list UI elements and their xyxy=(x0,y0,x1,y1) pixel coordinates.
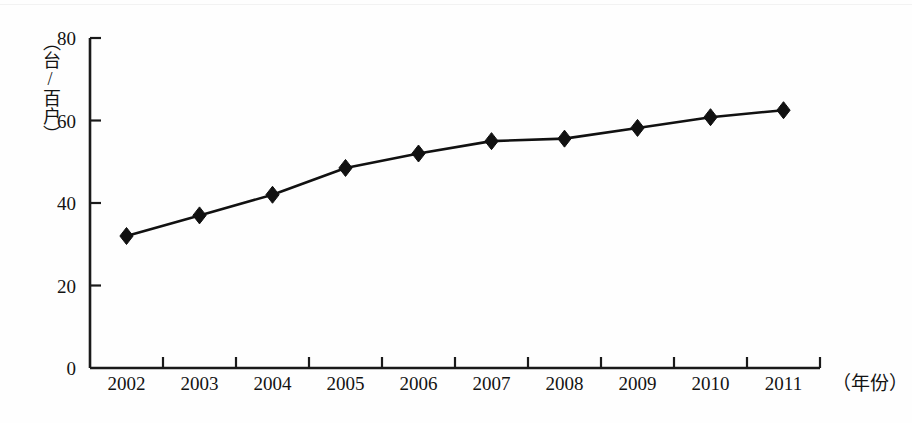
series-line xyxy=(127,110,784,236)
data-point-marker xyxy=(558,130,571,147)
x-axis-group: 2002200320042005200620072008200920102011 xyxy=(90,357,820,394)
x-tick-label: 2005 xyxy=(327,373,365,394)
x-tick-label: 2006 xyxy=(400,373,438,394)
y-tick-label: 60 xyxy=(57,111,76,132)
x-tick-label: 2010 xyxy=(692,373,730,394)
x-tick-label: 2011 xyxy=(765,373,802,394)
data-point-marker xyxy=(704,109,717,126)
x-tick-labels: 2002200320042005200620072008200920102011 xyxy=(108,373,803,394)
chart-figure: （台/百户） （年份） 020406080 200220032004200520… xyxy=(0,0,912,423)
data-point-marker xyxy=(193,207,206,224)
data-point-marker xyxy=(120,228,133,245)
x-tick-label: 2002 xyxy=(108,373,146,394)
y-tick-label: 0 xyxy=(67,358,77,379)
data-point-marker xyxy=(339,159,352,176)
data-point-marker xyxy=(412,145,425,162)
data-point-marker xyxy=(485,133,498,150)
y-tick-label: 80 xyxy=(57,28,76,49)
data-point-marker xyxy=(631,119,644,136)
x-tick-marks xyxy=(163,357,820,368)
x-tick-label: 2008 xyxy=(546,373,584,394)
series-markers xyxy=(120,102,790,245)
line-chart-plot: 020406080 200220032004200520062007200820… xyxy=(0,0,912,423)
data-series-group xyxy=(120,102,790,245)
y-axis-group: 020406080 xyxy=(57,28,101,379)
data-point-marker xyxy=(777,102,790,119)
y-tick-labels: 020406080 xyxy=(57,28,76,379)
x-tick-label: 2009 xyxy=(619,373,657,394)
data-point-marker xyxy=(266,186,279,203)
y-tick-label: 40 xyxy=(57,193,76,214)
x-tick-label: 2007 xyxy=(473,373,511,394)
y-tick-marks xyxy=(90,38,101,286)
x-tick-label: 2003 xyxy=(181,373,219,394)
x-tick-label: 2004 xyxy=(254,373,293,394)
y-tick-label: 20 xyxy=(57,276,76,297)
